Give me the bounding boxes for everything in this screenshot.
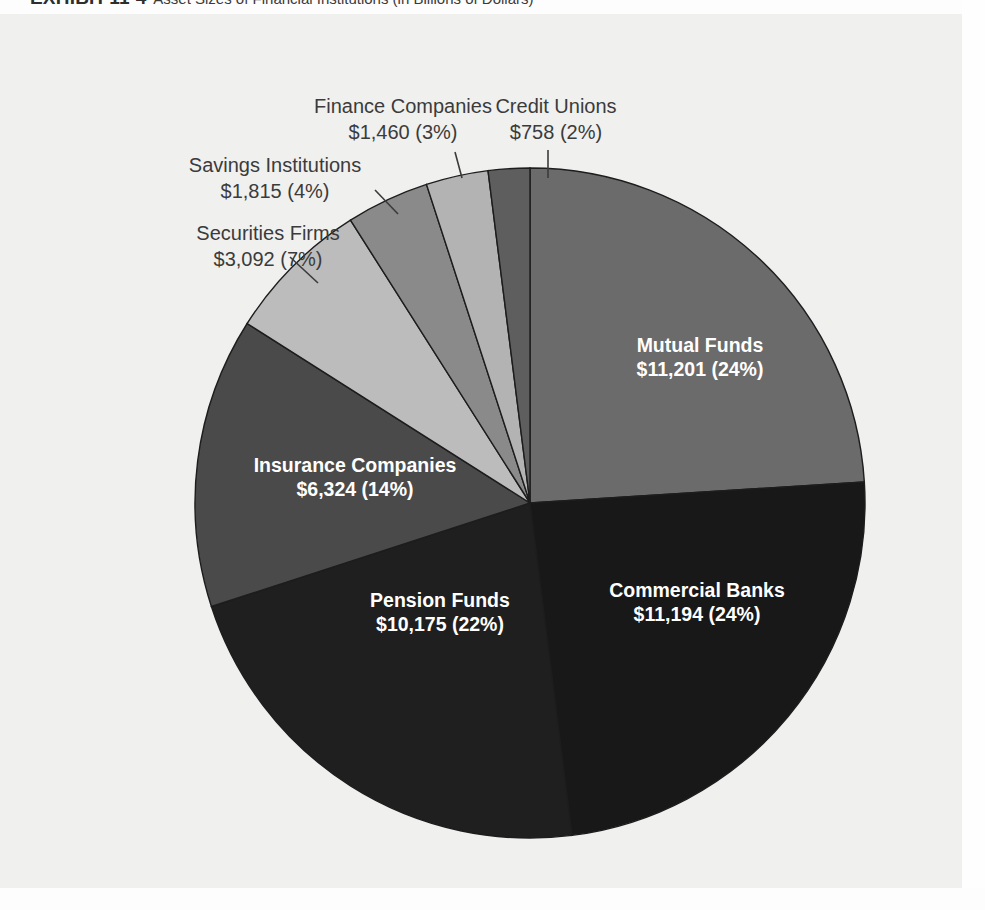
pie-chart: Mutual Funds$11,201 (24%)Commercial Bank… bbox=[0, 0, 985, 910]
callout-label-finance-companies: Finance Companies$1,460 (3%) bbox=[314, 95, 492, 143]
pie-slice-commercial-banks[interactable] bbox=[530, 482, 865, 835]
callout-label-credit-unions: Credit Unions$758 (2%) bbox=[495, 95, 616, 143]
leader-line-finance-companies bbox=[455, 152, 462, 178]
callout-label-savings-institutions: Savings Institutions$1,815 (4%) bbox=[189, 154, 361, 202]
